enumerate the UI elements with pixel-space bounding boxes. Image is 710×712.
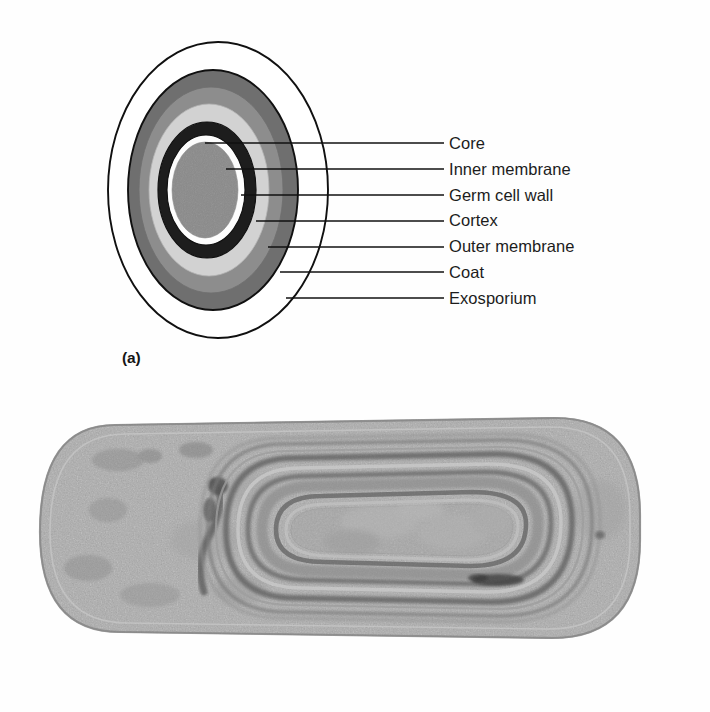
callout-label-outer-membrane: Outer membrane [449, 234, 699, 260]
endospore-electron-micrograph [0, 390, 710, 712]
callout-label-inner-membrane: Inner membrane [449, 157, 699, 183]
callout-label-cortex: Cortex [449, 208, 699, 234]
layer-core [172, 142, 238, 238]
plate-grain-overlay [0, 390, 710, 712]
callout-label-list: Core Inner membrane Germ cell wall Corte… [449, 131, 699, 312]
figure-root: Core Inner membrane Germ cell wall Corte… [0, 0, 710, 712]
panel-a-schematic: Core Inner membrane Germ cell wall Corte… [0, 0, 710, 390]
callout-label-germ-cell-wall: Germ cell wall [449, 183, 699, 209]
panel-a-caption: (a) [122, 349, 141, 367]
callout-label-coat: Coat [449, 260, 699, 286]
callout-label-exosporium: Exosporium [449, 286, 699, 312]
panel-b-micrograph: (b) [0, 390, 710, 712]
callout-label-core: Core [449, 131, 699, 157]
